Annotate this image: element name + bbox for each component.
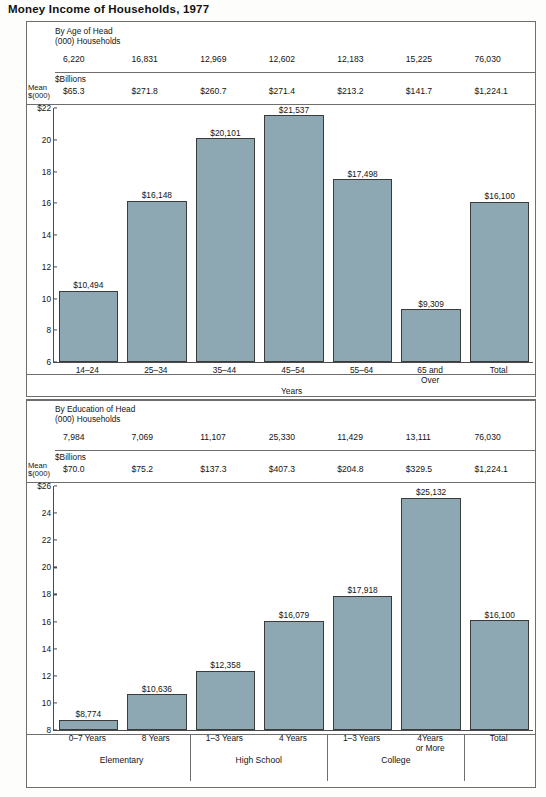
age-income-cell: $271.8 [132,86,158,96]
education-group-divider [27,400,535,401]
x-axis-category-label: 25–34 [122,366,191,376]
bar-value-label: $16,100 [485,610,515,620]
x-axis-category-label: 8 Years [122,734,191,744]
education-group-separator [327,734,328,781]
education-group-label: College [327,755,464,765]
bar-value-label: $20,101 [210,128,240,138]
bar-value-label: $25,132 [416,487,446,497]
edu-y-tick: 14 [42,644,54,654]
bar-value-label: $17,498 [347,169,377,179]
age-y-tick: 20 [42,135,54,145]
age-households-cell: 12,602 [269,54,295,64]
x-axis-category-label: Total [464,734,533,744]
education-billions-label: $Billions [55,452,86,462]
chart-panel-by-age: By Age of Head (000) Households 6,22016,… [26,21,536,397]
bar-value-label: $8,774 [75,709,101,719]
age-divider-1 [55,72,535,73]
bar-value-label: $12,358 [210,660,240,670]
age-y-tick: 12 [42,262,54,272]
age-y-tick: 10 [42,294,54,304]
age-y-tick: $22 [37,103,54,113]
x-axis-category-label: 4Years or More [396,734,465,753]
x-axis-category-label: 0–7 Years [53,734,122,744]
edu-y-tick: 24 [42,508,54,518]
bar[interactable]: $16,100 [470,620,530,730]
bar[interactable]: $8,774 [59,720,119,730]
age-income-cell: $1,224.1 [474,86,507,96]
age-households-cell: 6,220 [63,54,85,64]
edu-income-cell: $407.3 [269,464,295,474]
age-y-tick: 8 [46,325,54,335]
edu-households-cell: 13,111 [406,432,431,442]
age-households-cell: 15,225 [406,54,432,64]
edu-income-cell: $204.8 [337,464,363,474]
bar[interactable]: $12,358 [196,671,256,730]
edu-y-tick: 12 [42,671,54,681]
bar[interactable]: $10,494 [59,291,119,362]
chart-panel-by-education: By Education of Head (000) Households 7,… [26,399,536,788]
age-households-cell: 12,183 [337,54,363,64]
edu-y-tick: 20 [42,562,54,572]
education-group-separator [190,734,191,781]
age-income-cell: $141.7 [406,86,432,96]
bar-value-label: $9,309 [418,299,444,309]
age-income-cell: $213.2 [337,86,363,96]
bar[interactable]: $16,100 [470,202,530,362]
page-title: Money Income of Households, 1977 [8,3,209,15]
edu-y-tick: 22 [42,535,54,545]
bar[interactable]: $21,537 [264,115,324,362]
edu-households-cell: 7,069 [132,432,154,442]
age-households-cell: 16,831 [132,54,158,64]
age-plot-frame: $2220181614121086$10,494$16,148$20,101$2… [53,108,533,363]
edu-households-cell: 7,984 [63,432,85,442]
bar-value-label: $16,079 [279,610,309,620]
education-plot-area: $2624222018161412108$8,774$10,636$12,358… [27,486,535,731]
bar[interactable]: $17,498 [333,179,393,362]
age-households-cell: 76,030 [474,54,500,64]
bar[interactable]: $10,636 [127,694,187,730]
bar-value-label: $10,636 [142,684,172,694]
education-divider-2 [27,482,535,483]
x-axis-category-label: 55–64 [327,366,396,376]
age-y-tick: 18 [42,167,54,177]
bar-value-label: $10,494 [73,280,103,290]
edu-y-tick: 10 [42,698,54,708]
edu-income-cell: $1,224.1 [474,464,507,474]
edu-y-tick: 16 [42,617,54,627]
age-axis-title: Years [281,386,302,396]
education-x-axis: 0–7 Years8 Years1–3 Years4 Years1–3 Year… [53,734,533,756]
education-group-label: High School [190,755,327,765]
edu-income-cell: $75.2 [132,464,154,474]
x-axis-category-label: 4 Years [259,734,328,744]
age-y-tick: 16 [42,198,54,208]
bar[interactable]: $16,148 [127,201,187,362]
edu-households-cell: 11,107 [200,432,226,442]
age-households-row: 6,22016,83112,96912,60212,18315,22576,03… [27,54,535,68]
age-households-cell: 12,969 [200,54,226,64]
bar-value-label: $16,148 [142,190,172,200]
education-group-separator [464,734,465,781]
age-income-cell: $260.7 [200,86,226,96]
bar[interactable]: $20,101 [196,138,256,362]
x-axis-category-label: Total [464,366,533,376]
edu-households-cell: 76,030 [474,432,500,442]
x-axis-category-label: 65 and Over [396,366,465,385]
bar[interactable]: $9,309 [401,309,461,362]
age-income-cell: $65.3 [63,86,85,96]
bar[interactable]: $17,918 [333,596,393,730]
education-group-label: Elementary [53,755,190,765]
age-income-row: $65.3$271.8$260.7$271.4$213.2$141.7$1,22… [27,86,535,100]
age-income-cell: $271.4 [269,86,295,96]
bar[interactable]: $16,079 [264,621,324,731]
edu-households-cell: 11,429 [337,432,363,442]
bar-value-label: $21,537 [279,105,309,115]
education-plot-frame: $2624222018161412108$8,774$10,636$12,358… [53,486,533,731]
x-axis-category-label: 14–24 [53,366,122,376]
x-axis-category-label: 35–44 [190,366,259,376]
bar-value-label: $17,918 [347,585,377,595]
edu-y-tick: 18 [42,589,54,599]
x-axis-category-label: 45–54 [259,366,328,376]
x-axis-category-label: 1–3 Years [327,734,396,744]
education-divider-1 [55,450,535,451]
bar[interactable]: $25,132 [401,498,461,730]
